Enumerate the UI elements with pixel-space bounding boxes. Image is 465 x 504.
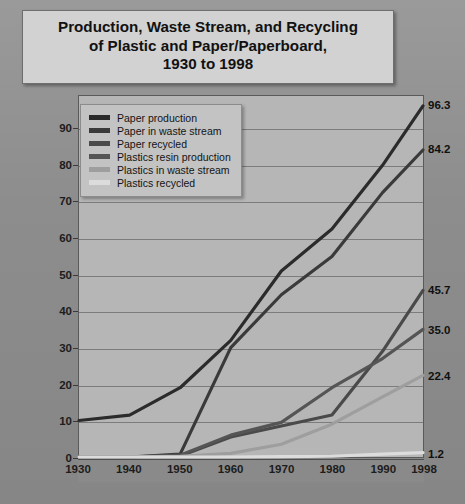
y-axis-tick-label: 30 xyxy=(16,342,72,354)
y-axis-tick-label: 10 xyxy=(16,415,72,427)
legend-label: Plastics in waste stream xyxy=(117,164,230,176)
y-axis-tick-mark xyxy=(73,165,78,166)
title-line-2: of Plastic and Paper/Paperboard, xyxy=(29,37,387,56)
series-line xyxy=(79,329,423,457)
x-axis-tick-label: 1940 xyxy=(116,463,142,475)
title-line-1: Production, Waste Stream, and Recycling xyxy=(29,18,387,37)
series-line xyxy=(79,290,423,457)
series-end-label: 96.3 xyxy=(428,99,450,111)
y-axis-tick-label: 0 xyxy=(16,452,72,464)
y-axis-tick-label: 70 xyxy=(16,195,72,207)
y-axis-tick-mark xyxy=(73,421,78,422)
legend-color-swatch xyxy=(89,115,110,120)
x-axis-tick-label: 1950 xyxy=(167,463,193,475)
x-axis-tick-label: 1960 xyxy=(218,463,244,475)
legend-label: Paper recycled xyxy=(117,138,187,150)
legend-label: Plastics resin production xyxy=(117,151,231,163)
series-end-label: 84.2 xyxy=(428,143,450,155)
title-line-3: 1930 to 1998 xyxy=(29,55,387,74)
legend-item: Plastics in waste stream xyxy=(89,163,231,176)
x-axis-tick-label: 1930 xyxy=(65,463,91,475)
legend-color-swatch xyxy=(89,154,110,159)
y-axis-tick-mark xyxy=(73,275,78,276)
y-axis-tick-mark xyxy=(73,128,78,129)
x-axis-tick-label: 1980 xyxy=(320,463,346,475)
y-axis-tick-label: 50 xyxy=(16,269,72,281)
y-axis-tick-label: 40 xyxy=(16,305,72,317)
y-axis-tick-mark xyxy=(73,201,78,202)
legend-color-swatch xyxy=(89,141,110,146)
legend-color-swatch xyxy=(89,180,110,185)
legend-item: Plastics recycled xyxy=(89,176,231,189)
series-end-label: 1.2 xyxy=(428,448,444,460)
legend-label: Paper in waste stream xyxy=(117,125,221,137)
legend-item: Plastics resin production xyxy=(89,150,231,163)
legend-label: Plastics recycled xyxy=(117,177,195,189)
legend-item: Paper in waste stream xyxy=(89,124,231,137)
x-axis-tick-label: 1990 xyxy=(370,463,396,475)
series-line xyxy=(79,453,423,457)
series-end-label: 22.4 xyxy=(428,370,450,382)
chart-figure: Production, Waste Stream, and Recycling … xyxy=(0,0,465,504)
y-axis-tick-label: 20 xyxy=(16,379,72,391)
y-axis-tick-label: 80 xyxy=(16,159,72,171)
series-end-label: 45.7 xyxy=(428,284,450,296)
x-axis: 19301940195019601970198019901998 xyxy=(78,459,424,482)
y-axis-tick-label: 90 xyxy=(16,122,72,134)
legend-color-swatch xyxy=(89,167,110,172)
chart-title: Production, Waste Stream, and Recycling … xyxy=(22,10,394,84)
legend-item: Paper recycled xyxy=(89,137,231,150)
legend-item: Paper production xyxy=(89,111,231,124)
x-axis-tick-label: 1970 xyxy=(269,463,295,475)
y-axis-tick-mark xyxy=(73,311,78,312)
y-axis-tick-mark xyxy=(73,238,78,239)
x-axis-tick-label: 1998 xyxy=(411,463,437,475)
legend: Paper productionPaper in waste streamPap… xyxy=(80,104,242,197)
legend-label: Paper production xyxy=(117,112,197,124)
y-axis-tick-mark xyxy=(73,348,78,349)
legend-color-swatch xyxy=(89,128,110,133)
series-end-label: 35.0 xyxy=(428,324,450,336)
y-axis-tick-mark xyxy=(73,385,78,386)
y-axis-tick-label: 60 xyxy=(16,232,72,244)
